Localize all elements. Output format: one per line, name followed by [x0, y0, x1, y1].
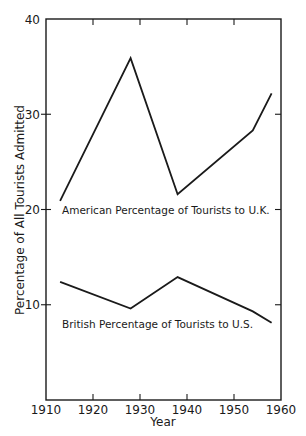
british-series-label: British Percentage of Tourists to U.S.: [62, 318, 253, 330]
y-axis-title: Percentage of All Tourists Admitted: [13, 105, 27, 315]
x-tick-label: 1940: [172, 403, 203, 417]
y-tick-label: 40: [25, 13, 40, 27]
y-tick-label: 10: [25, 298, 40, 312]
line-chart: 191019201930194019501960 10203040 Americ…: [0, 0, 306, 436]
x-tick-label: 1950: [219, 403, 250, 417]
series-lines: [60, 58, 272, 323]
x-axis-title: Year: [149, 415, 175, 429]
x-tick-label: 1920: [78, 403, 109, 417]
x-tick-label: 1910: [31, 403, 62, 417]
y-axis-tick-labels: 10203040: [25, 13, 40, 313]
chart-canvas: 191019201930194019501960 10203040 Americ…: [0, 0, 306, 436]
y-tick-label: 30: [25, 108, 40, 122]
british-percentage-line: [60, 277, 272, 323]
y-tick-label: 20: [25, 203, 40, 217]
american-percentage-line: [60, 58, 272, 201]
x-tick-label: 1960: [266, 403, 297, 417]
american-series-label: American Percentage of Tourists to U.K.: [62, 204, 270, 216]
